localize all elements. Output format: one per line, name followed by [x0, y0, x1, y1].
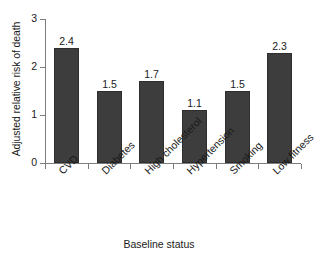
y-tick: 2	[40, 67, 45, 68]
x-tick	[216, 164, 217, 169]
x-tick	[301, 164, 302, 169]
x-tick	[173, 164, 174, 169]
bar-value-label: 1.5	[102, 78, 117, 90]
bar-value-label: 1.7	[144, 68, 159, 80]
y-tick-label: 1	[31, 108, 37, 121]
x-tick	[130, 164, 131, 169]
bar: 2.4	[54, 48, 79, 163]
y-axis-title: Adjusted relative risk of death	[10, 14, 22, 164]
bar-value-label: 2.4	[59, 35, 74, 47]
bar: 2.3	[267, 53, 292, 163]
y-tick: 1	[40, 115, 45, 116]
x-tick	[88, 164, 89, 169]
bar-value-label: 1.5	[230, 78, 245, 90]
x-tick	[45, 164, 46, 169]
bar-value-label: 1.1	[187, 97, 202, 109]
bar-chart-figure: Adjusted relative risk of death 0123 2.4…	[0, 0, 318, 261]
bar-value-label: 2.3	[272, 40, 287, 52]
y-axis-line	[45, 19, 46, 164]
x-axis-title: Baseline status	[0, 238, 318, 250]
y-tick-label: 0	[31, 156, 37, 169]
y-tick-label: 3	[31, 12, 37, 25]
y-tick-label: 2	[31, 60, 37, 73]
y-tick: 3	[40, 19, 45, 20]
x-tick	[258, 164, 259, 169]
